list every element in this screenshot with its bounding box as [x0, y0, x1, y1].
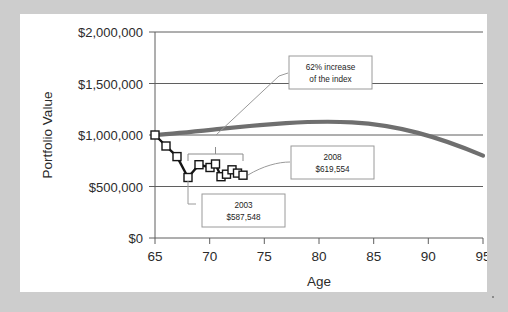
- chart-svg: $2,000,000 $1,500,000 $1,000,000 $500,00…: [20, 14, 487, 292]
- annotation-2008-line1: 2008: [323, 153, 342, 162]
- x-tick-label-85: 85: [366, 249, 381, 264]
- x-axis-title: Age: [307, 274, 331, 289]
- data-point-marker: [151, 131, 159, 139]
- annotation-index-increase-line2: of the index: [309, 75, 351, 84]
- data-point-marker: [162, 142, 170, 150]
- x-tick-label-70: 70: [202, 249, 217, 264]
- data-point-marker: [173, 153, 181, 161]
- recovery-bracket: [188, 147, 243, 161]
- portfolio-value-chart: $2,000,000 $1,500,000 $1,000,000 $500,00…: [20, 14, 487, 292]
- annotation-2003-line1: 2003: [234, 201, 253, 210]
- data-point-marker: [195, 161, 203, 169]
- annotation-2008[interactable]: 2008 $619,554: [291, 146, 374, 179]
- data-point-marker: [184, 174, 192, 182]
- x-axis-ticks: [155, 238, 483, 244]
- annotation-2003-line2: $587,548: [226, 213, 261, 222]
- leader-line-2008: [248, 162, 290, 175]
- y-axis-title: Portfolio Value: [40, 92, 55, 179]
- data-point-marker: [212, 160, 220, 168]
- x-tick-label-95: 95: [475, 249, 487, 264]
- x-tick-label-75: 75: [257, 249, 272, 264]
- annotation-index-increase-line1: 62% increase: [306, 63, 356, 72]
- x-tick-label-90: 90: [421, 249, 436, 264]
- x-tick-label-80: 80: [311, 249, 326, 264]
- series-portfolio-markers: [151, 131, 247, 182]
- chart-card: $2,000,000 $1,500,000 $1,000,000 $500,00…: [20, 14, 487, 292]
- y-tick-label-500000: $500,000: [89, 180, 143, 195]
- data-point-marker: [239, 171, 247, 179]
- y-tick-label-2000000: $2,000,000: [78, 25, 143, 40]
- leader-line-2003: [188, 181, 196, 204]
- annotation-2003[interactable]: 2003 $587,548: [202, 194, 285, 227]
- y-tick-label-1000000: $1,000,000: [78, 128, 143, 143]
- annotation-index-increase[interactable]: 62% increase of the index: [289, 56, 372, 89]
- background-speck: [492, 296, 494, 298]
- y-tick-label-0: $0: [129, 231, 143, 246]
- y-tick-label-1500000: $1,500,000: [78, 77, 143, 92]
- annotation-2008-line2: $619,554: [315, 165, 350, 174]
- x-tick-label-65: 65: [147, 249, 162, 264]
